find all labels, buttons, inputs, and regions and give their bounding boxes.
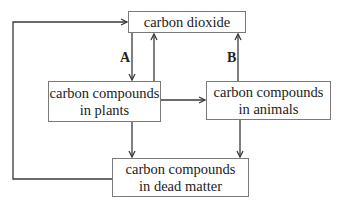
node-label-line1: carbon compounds <box>214 84 324 101</box>
node-label: carbon dioxide <box>144 14 231 31</box>
edge-label-b: B <box>227 50 236 66</box>
node-carbon-in-plants: carbon compounds in plants <box>48 81 161 122</box>
node-label-line2: in plants <box>80 102 130 119</box>
node-label-line2: in dead matter <box>139 178 222 195</box>
node-carbon-in-animals: carbon compounds in animals <box>206 81 331 120</box>
node-label-line1: carbon compounds <box>126 161 236 178</box>
edge-label-a: A <box>120 50 130 66</box>
node-carbon-dioxide: carbon dioxide <box>128 11 246 33</box>
node-label-line1: carbon compounds <box>50 85 160 102</box>
node-carbon-in-dead-matter: carbon compounds in dead matter <box>112 158 249 197</box>
node-label-line2: in animals <box>238 101 298 118</box>
